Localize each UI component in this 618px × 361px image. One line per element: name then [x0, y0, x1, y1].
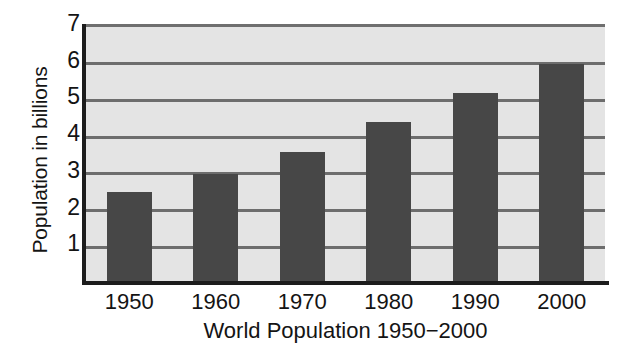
- y-axis-tick-labels: 1234567: [46, 0, 80, 361]
- bar-1970: [280, 152, 325, 284]
- bars-group: [86, 27, 605, 284]
- y-tick-label-6: 6: [46, 49, 80, 72]
- y-tick-label-2: 2: [46, 196, 80, 219]
- plot-area: [86, 24, 605, 284]
- x-tick-label-1960: 1960: [173, 289, 260, 315]
- x-axis-tick-labels: 195019601970198019902000: [86, 289, 605, 319]
- y-tick-label-3: 3: [46, 159, 80, 182]
- x-axis-line: [82, 281, 609, 285]
- bar-1950: [107, 192, 152, 284]
- x-tick-label-1970: 1970: [259, 289, 346, 315]
- bar-2000: [539, 64, 584, 284]
- bar-1990: [453, 93, 498, 284]
- x-tick-label-2000: 2000: [519, 289, 606, 315]
- x-axis-title: World Population 1950−2000: [86, 318, 605, 344]
- y-tick-label-5: 5: [46, 85, 80, 108]
- x-tick-label-1990: 1990: [432, 289, 519, 315]
- bar-chart-figure: Population in billions 1234567 195019601…: [0, 0, 618, 361]
- x-tick-label-1980: 1980: [346, 289, 433, 315]
- y-tick-label-1: 1: [46, 232, 80, 255]
- bar-1980: [366, 122, 411, 284]
- x-tick-label-1950: 1950: [86, 289, 173, 315]
- y-tick-label-4: 4: [46, 122, 80, 145]
- bar-1960: [193, 174, 238, 284]
- y-axis-line: [82, 24, 86, 285]
- y-tick-label-7: 7: [46, 12, 80, 35]
